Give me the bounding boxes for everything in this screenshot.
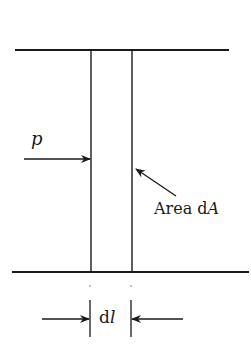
area-label: Area dA	[154, 199, 219, 218]
area-leader-arrow-icon	[136, 169, 176, 196]
length-label-variable: l	[110, 307, 115, 327]
area-label-variable: A	[208, 199, 220, 218]
diagram-canvas	[0, 0, 251, 350]
area-label-prefix: Area d	[154, 199, 208, 218]
pressure-label: p	[31, 128, 43, 149]
length-label: dl	[99, 307, 115, 327]
length-label-prefix: d	[99, 307, 110, 327]
